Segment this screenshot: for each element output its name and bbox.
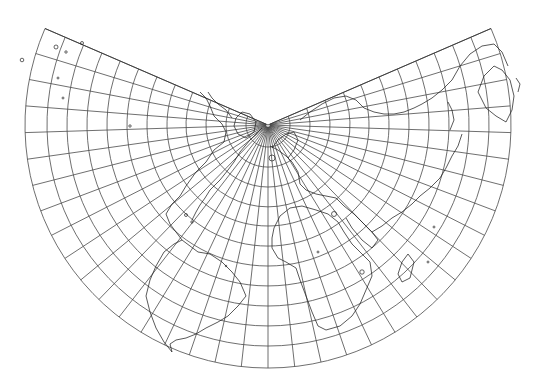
coastline-asia-north — [300, 96, 422, 120]
meridian-line — [269, 127, 417, 317]
island-pacific-isle-3 — [57, 77, 59, 79]
map-container — [0, 0, 535, 384]
meridian-line — [27, 125, 266, 159]
coastlines — [146, 44, 520, 352]
island-indian-isle — [433, 226, 435, 228]
island-pacific-isle-5 — [129, 125, 131, 127]
island-mauritius — [427, 261, 429, 263]
meridian-line — [29, 80, 266, 125]
meridian-lines — [25, 29, 511, 369]
coastline-new-zealand — [516, 78, 520, 92]
meridian-line — [241, 127, 267, 367]
coastline-madagascar — [398, 254, 414, 282]
meridian-line — [41, 126, 266, 211]
meridian-line — [270, 125, 511, 133]
island-hawaii-2 — [65, 51, 67, 53]
island-pacific-isle-4 — [62, 97, 64, 99]
meridian-line — [25, 125, 266, 133]
meridian-line — [270, 80, 507, 125]
conic-world-map — [0, 0, 535, 384]
island-pacific-isle-2 — [20, 58, 24, 62]
island-caspian — [332, 212, 337, 217]
island-lake-victoria — [360, 270, 364, 274]
meridian-line — [269, 127, 347, 355]
island-st-helena — [317, 251, 319, 253]
meridian-line — [270, 126, 495, 211]
meridian-line — [189, 127, 267, 355]
meridian-line — [99, 126, 267, 299]
meridian-line — [270, 125, 509, 159]
island-hawaii-1 — [54, 45, 58, 49]
